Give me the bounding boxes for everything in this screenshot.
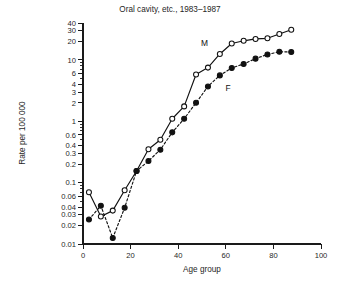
data-point-m [194, 72, 199, 77]
x-tick-label: 80 [269, 251, 277, 260]
y-tick-label: 2 [72, 99, 76, 108]
data-point-m [146, 147, 151, 152]
y-tick-label: 30 [68, 26, 76, 35]
x-tick-label: 0 [81, 251, 85, 260]
data-point-f [86, 217, 91, 222]
data-point-f [289, 49, 294, 54]
y-tick-label: 0.01 [61, 240, 76, 249]
x-tick-label: 40 [174, 251, 182, 260]
chart-title-group: Oral cavity, etc., 1983–1987 [119, 5, 221, 14]
data-point-f [122, 205, 127, 210]
x-tick-label: 60 [222, 251, 230, 260]
data-point-m [277, 31, 282, 36]
y-tick-label: 0.1 [65, 178, 76, 187]
series-label-m: M [201, 38, 208, 48]
data-point-m [289, 27, 294, 32]
y-tick-label: 0.04 [61, 203, 76, 212]
data-point-m [229, 41, 234, 46]
data-point-m [110, 208, 115, 213]
y-tick-label: 1 [72, 117, 76, 126]
data-point-m [217, 51, 222, 56]
data-point-f [229, 65, 234, 70]
data-point-f [205, 84, 210, 89]
y-axis-ticks: 0.010.020.030.040.060.10.20.30.40.612346… [61, 19, 83, 249]
y-tick-label: 10 [68, 56, 76, 65]
series-line-m [89, 30, 291, 217]
y-tick-label: 6 [72, 69, 76, 78]
data-point-f [146, 159, 151, 164]
data-point-m [122, 188, 127, 193]
data-point-f [98, 203, 103, 208]
axes-group [83, 23, 321, 244]
y-tick-label: 0.2 [65, 160, 76, 169]
data-point-m [86, 190, 91, 195]
x-axis-ticks: 020406080100 [81, 244, 327, 260]
chart-canvas: Oral cavity, etc., 1983–1987 0.010.020.0… [0, 0, 341, 284]
y-tick-label: 20 [68, 37, 76, 46]
data-point-f [110, 236, 115, 241]
y-tick-label: 0.03 [61, 210, 76, 219]
data-point-f [277, 49, 282, 54]
data-point-f [241, 61, 246, 66]
data-point-f [217, 73, 222, 78]
data-series-group [86, 27, 293, 240]
x-tick-label: 20 [126, 251, 134, 260]
y-tick-label: 0.06 [61, 192, 76, 201]
data-point-m [265, 36, 270, 41]
y-tick-label: 0.02 [61, 221, 76, 230]
data-point-f [253, 56, 258, 61]
data-point-m [253, 36, 258, 41]
x-tick-label: 100 [315, 251, 328, 260]
y-tick-label: 4 [72, 80, 76, 89]
data-point-f [158, 147, 163, 152]
chart-title: Oral cavity, etc., 1983–1987 [119, 5, 221, 14]
y-tick-label: 3 [72, 88, 76, 97]
data-point-f [182, 116, 187, 121]
series-line-f [89, 52, 291, 238]
data-point-m [98, 214, 103, 219]
y-tick-label: 0.4 [65, 141, 76, 150]
chart-figure: Oral cavity, etc., 1983–1987 0.010.020.0… [0, 0, 341, 284]
y-tick-label: 0.3 [65, 149, 76, 158]
data-point-m [170, 116, 175, 121]
data-point-m [205, 65, 210, 70]
data-point-f [170, 130, 175, 135]
data-point-m [241, 38, 246, 43]
data-point-m [158, 137, 163, 142]
series-label-f: F [226, 83, 231, 93]
y-tick-label: 40 [68, 19, 76, 28]
y-tick-label: 0.6 [65, 131, 76, 140]
axis-labels-group: Age group Rate per 100 000 [18, 101, 221, 274]
data-point-f [194, 100, 199, 105]
data-point-m [182, 104, 187, 109]
y-axis-label: Rate per 100 000 [18, 101, 27, 165]
x-axis-label: Age group [183, 265, 221, 274]
data-point-f [265, 52, 270, 57]
series-annotations: MF [201, 38, 231, 93]
data-point-f [134, 168, 139, 173]
